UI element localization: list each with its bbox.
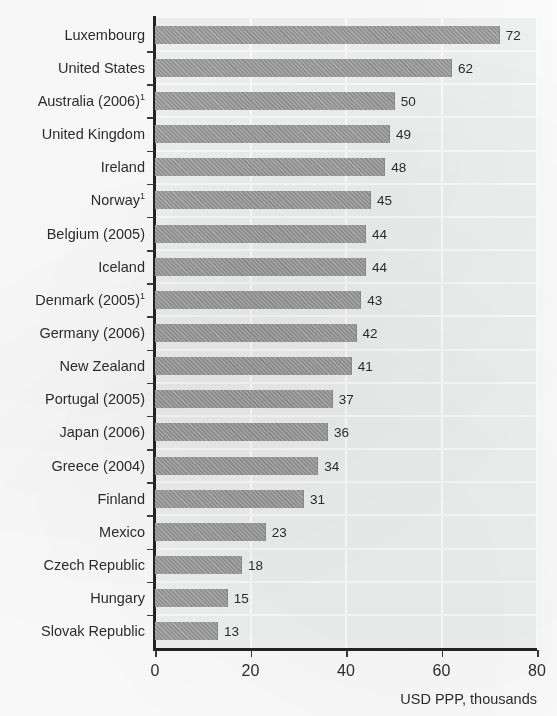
- bar: [155, 490, 304, 508]
- chart-title-cropped: [0, 0, 557, 7]
- bar-value-label: 44: [372, 228, 387, 242]
- y-axis-tick: [147, 416, 154, 418]
- footnote-marker: 1: [140, 92, 145, 102]
- bar: [155, 589, 228, 607]
- category-label: Slovak Republic: [0, 624, 145, 639]
- bar: [155, 390, 333, 408]
- category-label: Greece (2004): [0, 459, 145, 474]
- bar-value-label: 48: [391, 161, 406, 175]
- gridline-horizontal: [155, 448, 537, 450]
- bar: [155, 622, 218, 640]
- bar: [155, 357, 352, 375]
- gridline-horizontal: [155, 150, 537, 152]
- category-label: Denmark (2005)1: [0, 293, 145, 308]
- gridline-vertical: [441, 18, 443, 648]
- category-label: Portugal (2005): [0, 392, 145, 407]
- bar: [155, 258, 366, 276]
- gridline-horizontal: [155, 183, 537, 185]
- bar: [155, 225, 366, 243]
- x-axis-tick-label: 0: [151, 663, 160, 679]
- x-axis-tick-label: 80: [528, 663, 546, 679]
- x-axis-tick-label: 40: [337, 663, 355, 679]
- y-axis-tick: [147, 582, 154, 584]
- bar: [155, 457, 318, 475]
- bar-value-label: 18: [248, 559, 263, 573]
- y-axis-tick: [147, 151, 154, 153]
- footnote-marker: 1: [140, 291, 145, 301]
- y-axis-tick: [147, 383, 154, 385]
- category-label: United States: [0, 61, 145, 76]
- y-axis-tick: [147, 449, 154, 451]
- y-axis-tick: [147, 51, 154, 53]
- y-axis-tick: [147, 283, 154, 285]
- gridline-horizontal: [155, 83, 537, 85]
- category-label: Japan (2006): [0, 425, 145, 440]
- gridline-vertical: [536, 18, 538, 648]
- bar-value-label: 62: [458, 62, 473, 76]
- gridline-horizontal: [155, 581, 537, 583]
- category-label: Belgium (2005): [0, 227, 145, 242]
- y-axis-tick: [147, 217, 154, 219]
- gridline-horizontal: [155, 548, 537, 550]
- bar-value-label: 36: [334, 426, 349, 440]
- gridline-horizontal: [155, 315, 537, 317]
- x-axis-tick-label: 60: [433, 663, 451, 679]
- bar-value-label: 15: [234, 592, 249, 606]
- category-label: Finland: [0, 492, 145, 507]
- gridline-horizontal: [155, 481, 537, 483]
- bar: [155, 158, 385, 176]
- y-axis-tick: [147, 615, 154, 617]
- category-label: Hungary: [0, 591, 145, 606]
- bar-value-label: 44: [372, 261, 387, 275]
- bar: [155, 92, 395, 110]
- y-axis-tick: [147, 515, 154, 517]
- bar-value-label: 72: [506, 29, 521, 43]
- bar-value-label: 50: [401, 95, 416, 109]
- bar-value-label: 42: [363, 327, 378, 341]
- bar-value-label: 37: [339, 393, 354, 407]
- gridline-horizontal: [155, 116, 537, 118]
- y-axis-tick: [147, 250, 154, 252]
- x-axis-tick: [251, 650, 253, 657]
- gridline-horizontal: [155, 216, 537, 218]
- bar-value-label: 13: [224, 625, 239, 639]
- y-axis-tick: [147, 316, 154, 318]
- gridline-horizontal: [155, 249, 537, 251]
- x-axis-tick-label: 20: [242, 663, 260, 679]
- category-label: Australia (2006)1: [0, 94, 145, 109]
- gridline-horizontal: [155, 514, 537, 516]
- x-axis-tick: [155, 650, 157, 657]
- category-label: United Kingdom: [0, 127, 145, 142]
- y-axis-tick: [147, 184, 154, 186]
- category-label: Iceland: [0, 260, 145, 275]
- x-axis-caption: USD PPP, thousands: [400, 692, 537, 707]
- x-axis-tick: [537, 650, 539, 657]
- gridline-horizontal: [155, 349, 537, 351]
- category-label: Germany (2006): [0, 326, 145, 341]
- x-axis-tick: [346, 650, 348, 657]
- bar: [155, 556, 242, 574]
- y-axis-tick: [147, 482, 154, 484]
- bar-chart: Luxembourg72United States62Australia (20…: [0, 0, 557, 716]
- category-label: New Zealand: [0, 359, 145, 374]
- x-axis-tick: [442, 650, 444, 657]
- category-label: Mexico: [0, 525, 145, 540]
- y-axis-tick: [147, 84, 154, 86]
- gridline-horizontal: [155, 282, 537, 284]
- bar: [155, 523, 266, 541]
- gridline-horizontal: [155, 614, 537, 616]
- category-label: Czech Republic: [0, 558, 145, 573]
- category-label: Ireland: [0, 160, 145, 175]
- bar: [155, 26, 500, 44]
- gridline-horizontal: [155, 382, 537, 384]
- y-axis-tick: [147, 350, 154, 352]
- gridline-horizontal: [155, 50, 537, 52]
- bar-value-label: 49: [396, 128, 411, 142]
- bar-value-label: 41: [358, 360, 373, 374]
- bar: [155, 291, 361, 309]
- gridline-horizontal: [155, 415, 537, 417]
- category-label: Norway1: [0, 193, 145, 208]
- bar-value-label: 34: [324, 460, 339, 474]
- x-axis-line: [153, 648, 537, 651]
- bar: [155, 324, 357, 342]
